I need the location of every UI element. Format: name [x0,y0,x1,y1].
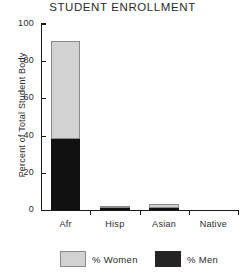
chart-title: STUDENT ENROLLMENT [0,1,245,13]
y-axis-tick [42,210,46,211]
bar-segment-men [149,208,179,210]
x-axis-tick [140,211,141,215]
legend-item[interactable]: % Men [155,249,218,269]
y-axis-tick-label: 20 [0,167,34,177]
x-axis-tick-label: Native [189,219,238,229]
x-axis-tick [189,211,190,215]
chart-legend: % Women% Men [0,249,245,271]
bar-afr [51,41,81,210]
y-axis-tick-label: 0 [0,204,34,214]
x-axis-tick-label: Hisp [90,219,139,229]
x-axis-tick [238,211,239,215]
x-axis-tick-label: Afr [41,219,90,229]
bar-segment-women [149,204,179,208]
legend-swatch-icon [60,251,86,267]
plot-area [41,24,238,210]
y-axis-tick-label: 40 [0,130,34,140]
legend-label: % Women [92,254,138,265]
bar-asian [149,204,179,210]
y-axis-tick-label: 80 [0,55,34,65]
legend-label: % Men [187,254,218,265]
legend-item[interactable]: % Women [60,249,138,269]
bar-segment-women [51,41,81,140]
bar-segment-men [100,208,130,210]
chart-container: STUDENT ENROLLMENT Percent of Total Stud… [0,0,245,276]
bar-segment-men [51,139,81,210]
legend-swatch-icon [155,251,181,267]
bar-hisp [100,206,130,210]
y-axis-tick-label: 60 [0,92,34,102]
x-axis-tick [90,211,91,215]
y-axis-tick-label: 100 [0,18,34,28]
x-axis-tick-label: Asian [140,219,189,229]
bar-segment-women [100,206,130,208]
